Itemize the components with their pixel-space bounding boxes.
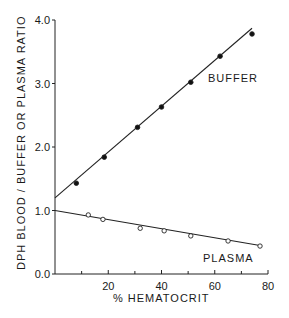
data-point-buffer xyxy=(135,125,140,130)
y-tick-label: 0.0 xyxy=(35,268,50,280)
fit-line-buffer xyxy=(55,28,252,198)
x-tick-label: 20 xyxy=(102,280,114,292)
fit-lines xyxy=(55,28,260,245)
data-point-buffer xyxy=(218,54,223,59)
data-point-plasma xyxy=(226,239,230,243)
data-point-plasma xyxy=(162,229,166,233)
x-axis-title: % HEMATOCRIT xyxy=(113,292,210,304)
data-point-plasma xyxy=(258,244,262,248)
y-tick-label: 2.0 xyxy=(35,141,50,153)
data-point-buffer xyxy=(74,181,79,186)
data-point-buffer xyxy=(159,105,164,110)
data-point-plasma xyxy=(189,234,193,238)
data-point-buffer xyxy=(102,155,107,160)
axes xyxy=(55,20,268,274)
data-point-buffer xyxy=(188,80,193,85)
y-ticks: 0.01.02.03.04.0 xyxy=(35,14,55,280)
series-label-buffer: BUFFER xyxy=(208,72,258,84)
data-point-plasma xyxy=(86,213,90,217)
x-tick-label: 60 xyxy=(209,280,221,292)
x-tick-label: 40 xyxy=(155,280,167,292)
y-tick-label: 3.0 xyxy=(35,78,50,90)
x-tick-label: 80 xyxy=(262,280,274,292)
y-axis-title: DPH BLOOD / BUFFER OR PLASMA RATIO xyxy=(15,16,27,270)
data-point-plasma xyxy=(101,217,105,221)
data-point-buffer xyxy=(250,32,255,37)
x-ticks: 20406080 xyxy=(82,270,275,292)
data-point-plasma xyxy=(138,226,142,230)
y-tick-label: 1.0 xyxy=(35,205,50,217)
y-tick-label: 4.0 xyxy=(35,14,50,26)
data-points xyxy=(74,32,262,249)
series-label-plasma: PLASMA xyxy=(203,252,254,264)
chart: 0.01.02.03.04.0 20406080 BUFFER PLASMA %… xyxy=(0,0,289,318)
